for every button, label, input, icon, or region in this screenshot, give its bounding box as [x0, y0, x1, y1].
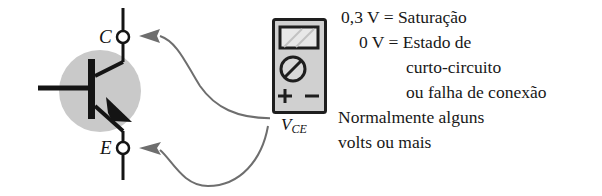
annotation-line-6: volts ou mais — [338, 130, 600, 155]
annotation-line-1: 0,3 V = Saturação — [338, 5, 600, 30]
annotation-line-2: 0 V = Estado de — [338, 30, 600, 55]
emitter-pointer-curve — [160, 126, 268, 186]
emitter-label: E — [100, 138, 112, 157]
collector-terminal-node — [117, 31, 129, 43]
meter-terminal-marks-svg — [272, 18, 327, 114]
emitter-pointer-arrowhead — [139, 142, 161, 155]
annotation-line-4: ou falha de conexão — [338, 80, 600, 105]
vce-label-symbol: V — [281, 115, 291, 134]
multimeter — [272, 18, 327, 114]
transistor-circuit: C E — [0, 0, 270, 196]
annotation-text-block: 0,3 V = Saturação 0 V = Estado de curto-… — [338, 5, 600, 155]
annotation-line-3: curto-circuito — [338, 55, 600, 80]
transistor-symbol-svg — [0, 0, 270, 196]
collector-label: C — [99, 27, 112, 46]
figure-canvas: C E VCE 0,3 V = Saturação 0 V = Estado d… — [0, 0, 602, 196]
vce-label: VCE — [281, 116, 307, 135]
emitter-terminal-node — [117, 142, 129, 154]
collector-pointer-arrowhead — [139, 29, 160, 43]
vce-label-subscript: CE — [291, 122, 307, 136]
collector-pointer-curve — [160, 36, 270, 118]
annotation-line-5: Normalmente alguns — [338, 105, 600, 130]
